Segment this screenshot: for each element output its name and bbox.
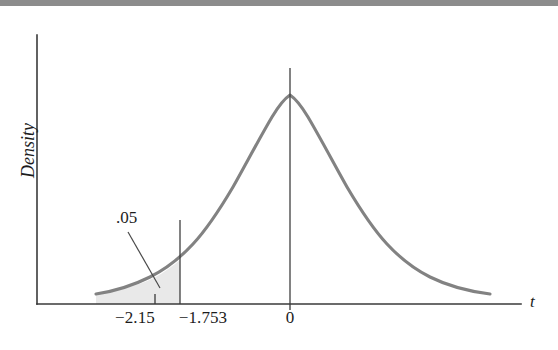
- x-axis-label: t: [530, 292, 535, 312]
- density-figure: Density t .05 −2.15 −1.753 0: [0, 0, 558, 350]
- y-axis-label: Density: [18, 101, 39, 201]
- plot-canvas: [0, 0, 558, 350]
- tick-label-zero: 0: [272, 308, 308, 328]
- tick-label-neg-1-753: −1.753: [158, 308, 248, 328]
- alpha-area-annotation: .05: [116, 208, 137, 228]
- density-curve: [96, 95, 490, 294]
